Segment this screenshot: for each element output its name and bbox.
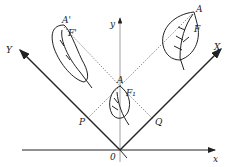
X-axis-label: X <box>213 42 221 52</box>
figure-F-prime-label: F' <box>67 28 77 38</box>
x-axis-label: x <box>213 154 218 164</box>
diagram-canvas: X Y y x 0 A A' A P Q F F' F₁ <box>0 0 243 167</box>
point-A-prime-label: A' <box>61 15 71 25</box>
point-A1-label: A <box>116 75 124 85</box>
point-Q-label: Q <box>155 117 163 127</box>
y-axis-label: y <box>109 19 116 29</box>
figure-F-label: F <box>193 24 201 34</box>
point-A-label: A <box>195 4 203 14</box>
figure-F1-label: F₁ <box>125 88 136 98</box>
projection-lines <box>64 14 192 119</box>
leaf-F <box>163 12 199 70</box>
origin-label: 0 <box>110 152 116 162</box>
Y-axis <box>20 50 127 158</box>
point-P-label: P <box>78 117 86 127</box>
X-axis <box>120 49 221 150</box>
Y-axis-label: Y <box>6 45 13 55</box>
